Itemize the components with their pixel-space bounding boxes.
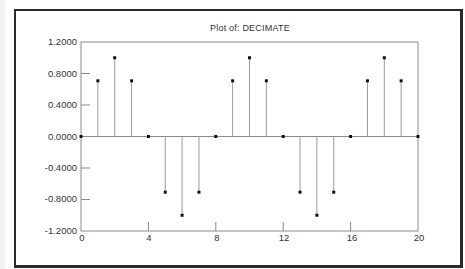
data-point-marker — [315, 214, 318, 217]
data-point-marker — [96, 79, 99, 82]
data-point-marker — [417, 135, 420, 138]
data-point-marker — [80, 135, 83, 138]
y-tick-label: 0.8000 — [17, 68, 77, 79]
data-point-marker — [299, 191, 302, 194]
data-point-marker — [113, 56, 116, 59]
data-point-marker — [214, 135, 217, 138]
data-point-marker — [383, 56, 386, 59]
data-point-marker — [130, 79, 133, 82]
x-tick-label: 20 — [404, 232, 434, 243]
x-tick-label: 12 — [269, 232, 299, 243]
data-point-marker — [366, 79, 369, 82]
y-tick-label: -0.8000 — [17, 193, 77, 204]
y-tick-label: 0.4000 — [17, 99, 77, 110]
data-point-marker — [197, 191, 200, 194]
data-point-marker — [265, 79, 268, 82]
data-point-marker — [282, 135, 285, 138]
data-point-marker — [181, 214, 184, 217]
data-point-marker — [248, 56, 251, 59]
y-tick-label: 0.0000 — [17, 131, 77, 142]
x-tick-label: 16 — [337, 232, 367, 243]
y-tick-label: 1.2000 — [17, 36, 77, 47]
data-point-marker — [332, 191, 335, 194]
data-point-marker — [147, 135, 150, 138]
chart-title: Plot of: DECIMATE — [200, 23, 300, 33]
data-point-marker — [349, 135, 352, 138]
x-tick-label: 0 — [67, 232, 97, 243]
data-point-marker — [231, 79, 234, 82]
x-tick-label: 4 — [134, 232, 164, 243]
x-tick-label: 8 — [202, 232, 232, 243]
y-tick-label: -0.4000 — [17, 162, 77, 173]
data-point-marker — [400, 79, 403, 82]
data-point-marker — [164, 191, 167, 194]
